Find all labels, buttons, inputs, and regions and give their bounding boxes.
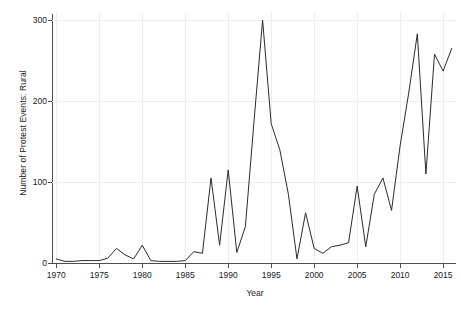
- y-tick-label-100: 100: [19, 178, 47, 187]
- x-tick-mark-2015: [443, 264, 444, 268]
- x-tick-label-1995: 1995: [251, 271, 291, 280]
- series-line: [52, 12, 456, 263]
- x-tick-label-1970: 1970: [36, 271, 76, 280]
- y-axis-title: Number of Protest Events: Rural: [16, 2, 30, 264]
- x-axis-spine: [52, 263, 456, 264]
- x-tick-label-1980: 1980: [122, 271, 162, 280]
- x-tick-label-2010: 2010: [380, 271, 420, 280]
- x-tick-mark-1995: [271, 264, 272, 268]
- x-tick-mark-2005: [357, 264, 358, 268]
- x-tick-mark-2000: [314, 264, 315, 268]
- y-tick-label-200: 200: [19, 97, 47, 106]
- x-tick-mark-1990: [228, 264, 229, 268]
- x-tick-mark-1975: [99, 264, 100, 268]
- x-axis-title: Year: [60, 288, 450, 298]
- x-tick-mark-1985: [185, 264, 186, 268]
- plot-area: [52, 12, 456, 263]
- x-tick-label-1975: 1975: [79, 271, 119, 280]
- x-tick-label-2015: 2015: [423, 271, 461, 280]
- x-tick-label-2000: 2000: [294, 271, 334, 280]
- x-tick-mark-1970: [56, 264, 57, 268]
- x-tick-label-1990: 1990: [208, 271, 248, 280]
- x-tick-label-2005: 2005: [337, 271, 377, 280]
- chart-figure: Number of Protest Events: Rural 01002003…: [0, 0, 461, 311]
- y-tick-label-300: 300: [19, 16, 47, 25]
- y-tick-mark-0: [48, 263, 52, 264]
- x-tick-mark-2010: [400, 264, 401, 268]
- x-tick-label-1985: 1985: [165, 271, 205, 280]
- x-tick-mark-1980: [142, 264, 143, 268]
- y-tick-label-0: 0: [19, 259, 47, 268]
